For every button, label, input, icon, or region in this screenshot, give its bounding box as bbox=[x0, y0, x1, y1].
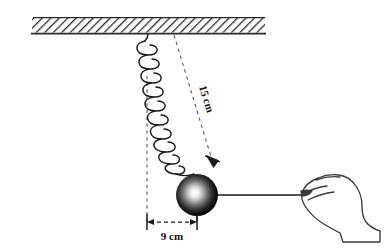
dimension-15cm: 15 cm bbox=[174, 35, 220, 168]
ceiling-hatch-band bbox=[32, 18, 265, 33]
spring-coil bbox=[143, 83, 163, 97]
dimension-9cm-label: 9 cm bbox=[161, 230, 183, 242]
spring-top-lead bbox=[145, 34, 148, 41]
dimension-9cm-left-arrowhead bbox=[147, 219, 154, 225]
suspended-mass-ball bbox=[176, 174, 218, 216]
dimension-9cm-right-arrowhead bbox=[190, 219, 197, 225]
spring-coil bbox=[150, 125, 171, 139]
spring-coil bbox=[139, 55, 159, 69]
spring-coil bbox=[147, 111, 168, 125]
ceiling-support bbox=[31, 18, 266, 34]
hand bbox=[301, 175, 380, 242]
hand-outline bbox=[302, 175, 380, 242]
spring-pendulum-diagram: 15 cm bbox=[0, 0, 390, 250]
diagram-canvas: 15 cm bbox=[0, 0, 390, 250]
dimension-9cm: 9 cm bbox=[147, 214, 197, 242]
spring-coil bbox=[145, 97, 165, 111]
spring-coil bbox=[159, 152, 180, 164]
dimension-15cm-label: 15 cm bbox=[197, 84, 217, 114]
spring-coil bbox=[141, 69, 161, 83]
spring-coil bbox=[165, 164, 184, 174]
coil-spring bbox=[137, 34, 194, 176]
spring-coil bbox=[154, 139, 175, 152]
spring-coil bbox=[137, 41, 157, 55]
